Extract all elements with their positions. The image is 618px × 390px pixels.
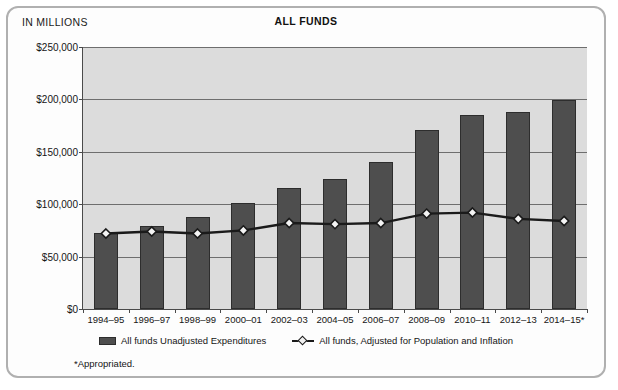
chart-title: ALL FUNDS: [8, 15, 604, 27]
bar: [552, 100, 576, 309]
gridline: [83, 99, 587, 100]
x-tick-label: 2008–09: [408, 314, 445, 325]
legend-entry-line: All funds, Adjusted for Population and I…: [292, 335, 513, 346]
y-tick-label: $150,000: [36, 146, 78, 157]
x-tick-mark: [129, 309, 130, 313]
x-tick-label: 2010–11: [454, 314, 490, 325]
x-tick-mark: [495, 309, 496, 313]
x-tick-label: 2006–07: [362, 314, 399, 325]
y-tick-label: $100,000: [36, 199, 78, 210]
x-tick-mark: [175, 309, 176, 313]
x-tick-mark: [266, 309, 267, 313]
y-tick-label: $50,000: [42, 251, 78, 262]
x-tick-mark: [220, 309, 221, 313]
x-tick-label: 2004–05: [317, 314, 354, 325]
legend-label-bar: All funds Unadjusted Expenditures: [121, 335, 266, 346]
legend-entry-bar: All funds Unadjusted Expenditures: [99, 335, 266, 346]
x-tick-label: 2014–15*: [544, 314, 585, 325]
x-tick-label: 1998–99: [179, 314, 216, 325]
x-tick-mark: [312, 309, 313, 313]
bar: [506, 112, 530, 309]
x-tick-mark: [358, 309, 359, 313]
bar: [415, 130, 439, 309]
y-tick-mark: [79, 152, 83, 153]
chart-footnote: *Appropriated.: [74, 358, 135, 369]
chart-figure: IN MILLIONS ALL FUNDS $0$50,000$100,000$…: [6, 6, 606, 378]
x-tick-mark: [83, 309, 84, 313]
x-tick-label: 1996–97: [133, 314, 170, 325]
x-tick-label: 1994–95: [87, 314, 124, 325]
bar-swatch-icon: [99, 337, 116, 345]
x-tick-label: 2002–03: [271, 314, 308, 325]
y-tick-label: $200,000: [36, 94, 78, 105]
bar: [231, 203, 255, 309]
line-diamond-swatch-icon: [292, 336, 314, 346]
x-tick-mark: [587, 309, 588, 313]
y-tick-label: $250,000: [36, 42, 78, 53]
y-tick-mark: [79, 47, 83, 48]
bar: [277, 188, 301, 309]
bar: [369, 162, 393, 309]
y-tick-mark: [79, 257, 83, 258]
chart-legend: All funds Unadjusted Expenditures All fu…: [8, 335, 604, 346]
x-tick-label: 2000–01: [225, 314, 262, 325]
bar: [323, 179, 347, 309]
y-tick-label: $0: [67, 304, 78, 315]
bar: [460, 115, 484, 309]
bar: [186, 217, 210, 309]
y-tick-mark: [79, 204, 83, 205]
x-tick-label: 2012–13: [500, 314, 537, 325]
x-tick-mark: [450, 309, 451, 313]
gridline: [83, 47, 587, 48]
x-tick-mark: [541, 309, 542, 313]
plot-area: $0$50,000$100,000$150,000$200,000$250,00…: [82, 47, 587, 310]
x-tick-mark: [404, 309, 405, 313]
y-tick-mark: [79, 99, 83, 100]
bar: [140, 226, 164, 309]
bar: [94, 233, 118, 310]
legend-label-line: All funds, Adjusted for Population and I…: [319, 335, 513, 346]
